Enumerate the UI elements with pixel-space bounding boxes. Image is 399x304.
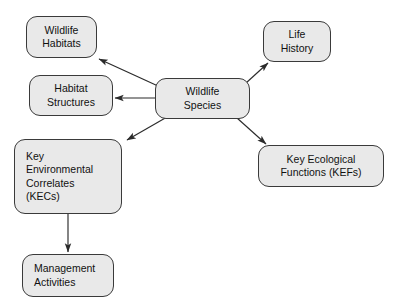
node-label-line: History <box>281 42 314 56</box>
node-label-line: Habitat <box>54 82 87 96</box>
node-label-line: Functions (KEFs) <box>280 166 361 180</box>
node-label-line: Species <box>184 99 221 113</box>
edge-species-to-life-history <box>246 63 268 83</box>
node-key-ecological-functions[interactable]: Key EcologicalFunctions (KEFs) <box>258 145 384 187</box>
node-label-line: Correlates <box>26 177 74 191</box>
node-label-line: (KECs) <box>26 190 60 204</box>
node-life-history[interactable]: LifeHistory <box>263 21 331 62</box>
node-label-line: Management <box>34 262 95 276</box>
node-label-line: Structures <box>47 96 95 110</box>
node-wildlife-species[interactable]: WildlifeSpecies <box>155 78 250 119</box>
node-management-activities[interactable]: ManagementActivities <box>22 254 114 297</box>
node-wildlife-habitats[interactable]: WildlifeHabitats <box>26 16 97 58</box>
diagram-canvas: WildlifeHabitatsHabitatStructuresWildlif… <box>0 0 399 304</box>
node-label-line: Key Ecological <box>287 153 356 167</box>
node-label-line: Habitats <box>42 37 81 51</box>
node-habitat-structures[interactable]: HabitatStructures <box>29 75 113 116</box>
node-label-line: Environmental <box>26 163 93 177</box>
node-label-line: Life <box>289 28 306 42</box>
node-label-line: Key <box>26 150 44 164</box>
edge-species-to-key-ecological-functions <box>237 118 266 144</box>
node-label-line: Wildlife <box>45 24 79 38</box>
node-label-line: Wildlife <box>186 85 220 99</box>
edge-species-to-key-environmental-correlates <box>127 117 167 140</box>
node-label-line: Activities <box>34 276 75 290</box>
node-key-environmental-correlates[interactable]: KeyEnvironmentalCorrelates(KECs) <box>14 139 122 214</box>
